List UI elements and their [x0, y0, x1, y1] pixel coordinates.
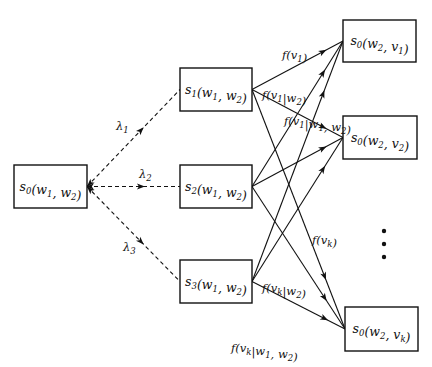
- edge-label-f-v1-w1w2: f(v1|w1, w2): [283, 114, 351, 137]
- arrowhead-icon: [318, 144, 328, 153]
- middle-node-s3: s3(w1, w2): [180, 260, 252, 303]
- arrowhead-icon: [318, 47, 328, 56]
- arrowhead-icon: [320, 293, 329, 303]
- nodes-layer: s0(w1, w2)s1(w1, w2)s2(w1, w2)s3(w1, w2)…: [14, 20, 418, 351]
- middle-node-s2: s2(w1, w2): [180, 165, 252, 208]
- edge-s3-t2: [252, 138, 343, 282]
- arrowhead-icon: [318, 164, 327, 174]
- arrowhead-icon: [320, 314, 330, 323]
- edge-label-f-vk-w1w2: f(vk|w1, w2): [230, 341, 298, 364]
- dashed-edge-root-s3: [87, 187, 180, 282]
- dashed-edge-root-s1: [87, 90, 180, 187]
- edge-label-f-vk: f(vk): [311, 233, 337, 250]
- outcome-node-t2: s0(w2, v2): [343, 116, 417, 159]
- ellipsis-dot: [382, 229, 386, 233]
- arrowhead-icon: [318, 68, 327, 78]
- probability-tree-diagram: s0(w1, w2)s1(w1, w2)s2(w1, w2)s3(w1, w2)…: [0, 0, 432, 367]
- lambda-label-2: λ2: [138, 167, 152, 183]
- middle-node-s1: s1(w1, w2): [180, 68, 252, 111]
- lambda-label-1: λ1: [115, 119, 129, 135]
- lambda-label-3: λ3: [122, 240, 136, 256]
- edge-label-f-v1: f(v1): [281, 48, 307, 65]
- ellipsis-dot: [382, 242, 386, 246]
- outcome-node-t1: s0(w2, v1): [343, 20, 416, 62]
- ellipsis-dot: [382, 255, 386, 259]
- root-node: s0(w1, w2): [14, 165, 87, 208]
- edge-s1-t1: [252, 41, 343, 90]
- edge-label-f-v1-w2: f(v1|w2): [261, 88, 306, 108]
- vertical-ellipsis: [382, 229, 386, 259]
- arrowhead-icon: [320, 271, 328, 281]
- outcome-node-tk: s0(w2, vk): [345, 307, 418, 351]
- arrowhead-icon: [319, 89, 327, 99]
